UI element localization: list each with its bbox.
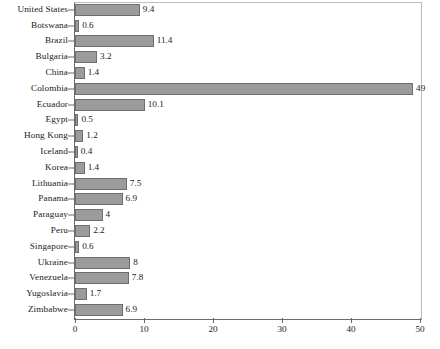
bar-value-label: 10.1 [148,100,164,109]
bar [75,35,154,47]
x-axis-tick [351,318,352,323]
bar-value-label: 1.4 [88,163,99,172]
bar [75,288,87,300]
category-label: Ukraine [38,258,68,267]
bar-row: Ecuador10.1 [0,97,440,113]
category-label: Botswana [31,21,68,30]
bar [75,209,103,221]
bar-value-label: 0.5 [81,116,92,125]
x-axis-tick [144,318,145,323]
x-axis-tick [282,318,283,323]
bar-row: Panama6.9 [0,192,440,208]
bar-row: Paraguay4 [0,207,440,223]
bar-value-label: 6.9 [126,305,137,314]
bar-row: Lithuania7.5 [0,176,440,192]
bar-value-label: 0.4 [81,147,92,156]
bar-row: Ukraine8 [0,255,440,271]
y-axis-tick [68,294,74,295]
category-label: China [46,68,68,77]
x-axis-tick-label: 20 [208,325,217,334]
category-label: Brazil [45,37,68,46]
bar-value-label: 7.8 [132,274,143,283]
bar-value-label: 9.4 [143,5,154,14]
category-label: Panama [38,195,68,204]
category-label: Colombia [31,84,68,93]
category-label: Zimbabwe [28,305,68,314]
bar-value-label: 6.9 [126,195,137,204]
bar [75,130,83,142]
x-axis-tick-label: 50 [415,325,424,334]
bar [75,162,85,174]
y-axis-tick [68,167,74,168]
bar-value-label: 49 [416,84,425,93]
bar-value-label: 11.4 [157,37,173,46]
category-label: Paraguay [33,211,68,220]
bar [75,193,123,205]
y-axis-tick [68,262,74,263]
y-axis-tick [68,278,74,279]
x-axis-tick [420,318,421,323]
y-axis-tick [68,73,74,74]
bar-rows: United States9.4Botswana0.6Brazil11.4Bul… [0,2,440,318]
y-axis-tick [68,310,74,311]
bar [75,4,140,16]
category-label: Venezuela [29,274,68,283]
y-axis-tick [68,9,74,10]
x-axis-tick-label: 0 [73,325,78,334]
bar-row: Iceland0.4 [0,144,440,160]
bar-value-label: 4 [106,211,111,220]
bar-row: Brazil11.4 [0,34,440,50]
y-axis-tick [68,231,74,232]
bar-value-label: 8 [133,258,138,267]
category-label: Hong Kong [24,132,68,141]
bar-row: Colombia49 [0,81,440,97]
x-axis-tick-label: 10 [139,325,148,334]
bar [75,241,79,253]
bar [75,272,129,284]
y-axis-tick [68,199,74,200]
x-axis: 01020304050 [74,318,421,348]
category-label: Ecuador [37,100,68,109]
bar [75,146,78,158]
category-label: Singapore [30,242,68,251]
bar-row: United States9.4 [0,2,440,18]
bar [75,304,123,316]
y-axis-tick [68,88,74,89]
bar-value-label: 1.2 [86,132,97,141]
bar-row: Singapore0.6 [0,239,440,255]
y-axis-tick [68,104,74,105]
bar-value-label: 3.2 [100,53,111,62]
x-axis-tick-label: 30 [277,325,286,334]
bar-row: Egypt0.5 [0,113,440,129]
bar-row: Korea1.4 [0,160,440,176]
bar-value-label: 0.6 [82,242,93,251]
y-axis-tick [68,136,74,137]
bar-value-label: 2.2 [93,226,104,235]
y-axis-tick [68,152,74,153]
bar-row: Peru2.2 [0,223,440,239]
bar-row: China1.4 [0,65,440,81]
y-axis-tick [68,120,74,121]
bar-row: Bulgaria3.2 [0,49,440,65]
y-axis-tick [68,246,74,247]
category-label: Iceland [40,147,68,156]
category-label: Bulgaria [36,53,68,62]
bar-chart: United States9.4Botswana0.6Brazil11.4Bul… [0,0,440,349]
bar [75,225,90,237]
y-axis-tick [68,41,74,42]
bar-value-label: 7.5 [130,179,141,188]
bar-row: Zimbabwe6.9 [0,302,440,318]
category-label: Lithuania [32,179,68,188]
y-axis-tick [68,57,74,58]
x-axis-tick-label: 40 [346,325,355,334]
bar [75,99,145,111]
category-label: Egypt [46,116,68,125]
y-axis-tick [68,25,74,26]
bar [75,114,78,126]
bar [75,257,130,269]
y-axis-tick [68,183,74,184]
bar [75,20,79,32]
y-axis-tick [68,215,74,216]
bar-row: Botswana0.6 [0,18,440,34]
bar-value-label: 1.7 [90,290,101,299]
